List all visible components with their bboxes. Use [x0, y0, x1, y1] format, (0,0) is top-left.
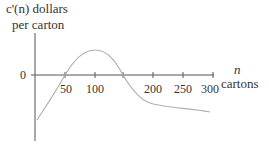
plot-area — [0, 0, 269, 146]
curve — [37, 50, 210, 120]
